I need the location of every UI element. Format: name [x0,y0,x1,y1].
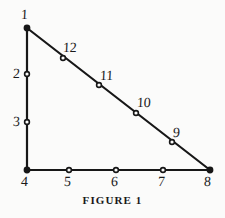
figure-container: 123456789101112 FIGURE 1 [0,0,225,218]
node-label-2: 2 [13,67,20,81]
node-marker-5 [67,168,72,173]
node-marker-9 [170,140,175,145]
node-label-10: 10 [137,96,151,110]
node-marker-12 [61,56,66,61]
node-label-11: 11 [100,69,114,83]
node-marker-11 [97,83,102,88]
node-label-4: 4 [21,175,28,189]
node-marker-4 [24,167,29,172]
node-label-8: 8 [204,175,211,189]
hypotenuse [27,28,210,170]
node-marker-7 [161,168,166,173]
node-marker-10 [134,111,139,116]
node-label-3: 3 [13,115,20,129]
node-marker-3 [25,120,30,125]
node-marker-2 [25,72,30,77]
node-marker-8 [207,167,212,172]
node-label-9: 9 [173,126,180,140]
node-label-12: 12 [63,41,77,55]
node-marker-6 [114,168,119,173]
node-label-7: 7 [158,175,165,189]
node-marker-1 [24,25,29,30]
node-label-5: 5 [64,175,71,189]
figure-caption: FIGURE 1 [0,194,225,206]
triangle-edges [27,28,210,170]
node-label-1: 1 [21,8,28,22]
node-label-6: 6 [111,175,118,189]
